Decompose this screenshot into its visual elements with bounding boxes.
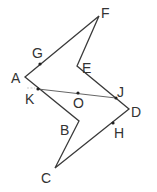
label-a: A [11,70,21,86]
label-b: B [60,122,69,138]
label-g: G [32,45,43,61]
label-h: H [114,125,124,141]
label-o: O [73,95,84,111]
point-g [38,62,41,65]
label-k: K [25,91,35,107]
label-f: F [101,5,110,21]
label-j: J [117,84,124,100]
label-c: C [41,170,51,186]
geometry-diagram: A F E D C B G K O J H [0,0,157,192]
label-d: D [131,104,141,120]
label-e: E [82,60,91,76]
point-k [36,87,39,90]
